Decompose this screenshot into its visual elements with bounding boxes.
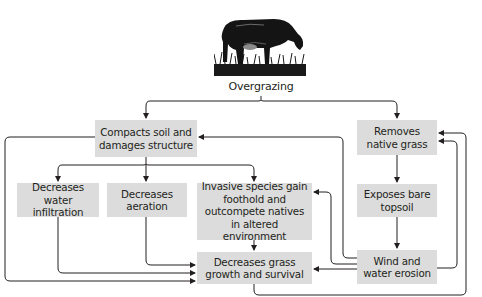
node-removes-native-grass: Removes native grass bbox=[357, 120, 437, 155]
node-exposes-bare-topsoil: Exposes bare topsoil bbox=[357, 184, 437, 217]
node-invasive-species: Invasive species gain foothold and outco… bbox=[197, 183, 312, 240]
node-decreases-water-infiltration: Decreases water infiltration bbox=[17, 183, 99, 217]
node-compacts-soil: Compacts soil and damages structure bbox=[95, 120, 197, 157]
node-decreases-grass-growth: Decreases grass growth and survival bbox=[197, 252, 312, 284]
overgrazing-diagram: Overgrazing bbox=[0, 0, 482, 297]
node-wind-water-erosion: Wind and water erosion bbox=[357, 250, 437, 284]
node-decreases-aeration: Decreases aeration bbox=[107, 183, 187, 217]
